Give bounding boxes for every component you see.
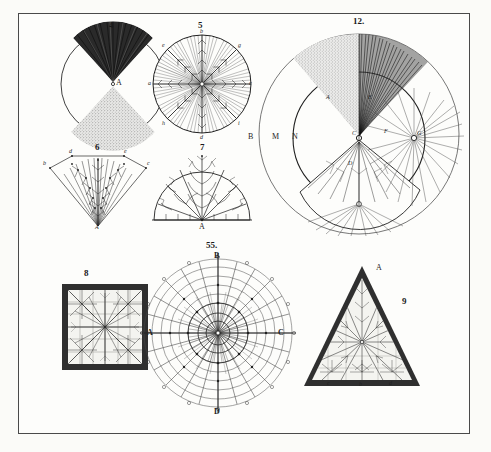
figure-5-label-d: d [200, 134, 203, 140]
figure-12-label-a: A [326, 94, 330, 100]
figure-6-label-a: A [95, 224, 99, 230]
figure-6-label-e: e [124, 148, 127, 154]
figure-5-label-h: h [162, 120, 165, 126]
figure-9-label-d: d [389, 380, 392, 386]
figure-12-number: 12. [353, 16, 364, 26]
figure-55-label-a: A [147, 328, 153, 337]
figure-8: 8 [58, 268, 156, 380]
figure-55-label-d: D [214, 407, 220, 416]
figure-9-label-a: A [376, 263, 382, 272]
figure-12: 12. [248, 16, 470, 236]
figure-6-label-b: b [43, 160, 46, 166]
figure-6-drawing [42, 142, 154, 234]
figure-8-drawing [58, 268, 156, 380]
figure-6-label-d: d [69, 148, 72, 154]
figure-4-label-a: A [116, 78, 122, 87]
figure-5-drawing [148, 20, 256, 145]
figure-5-label-b: b [200, 28, 203, 34]
figure-5-label-a: a [148, 80, 151, 86]
figure-7-label-a: A [199, 222, 205, 231]
figure-5-label-i: i [238, 120, 240, 126]
figure-9-drawing [298, 258, 426, 393]
figure-55: 55. [148, 240, 288, 418]
figure-5: 5 [148, 20, 256, 145]
figure-5-label-e: e [162, 42, 165, 48]
figure-9-label-c: c [327, 380, 330, 386]
figure-55-label-c: C [278, 328, 284, 337]
engraved-plate: 4 [0, 0, 491, 452]
figure-9: A 9 c b d [298, 258, 426, 393]
figure-8-number: 8 [84, 268, 89, 278]
figure-12-label-f: F [384, 128, 388, 134]
figure-7: 7 [148, 142, 256, 238]
figure-7-number: 7 [200, 142, 205, 152]
figure-55-label-b: B [214, 251, 219, 260]
figure-12-label-d: D [348, 160, 352, 166]
figure-5-label-g: g [238, 42, 241, 48]
figure-12-label-e: E [368, 94, 372, 100]
figure-55-number: 55. [206, 240, 217, 250]
figure-12-label-n: N [292, 132, 298, 141]
figure-12-label-b: B [248, 132, 253, 141]
figure-12-label-c: C [352, 130, 356, 136]
figure-12-drawing [248, 16, 470, 236]
figure-9-label-b: b [359, 381, 362, 387]
figure-12-label-m: M [272, 132, 279, 141]
figure-6: 6 [42, 142, 154, 234]
figure-12-label-g: G [417, 130, 421, 136]
figure-9-number: 9 [402, 296, 407, 306]
figure-4-number: 4 [109, 20, 114, 30]
figure-55-drawing [148, 240, 288, 418]
figure-6-number: 6 [95, 142, 100, 152]
